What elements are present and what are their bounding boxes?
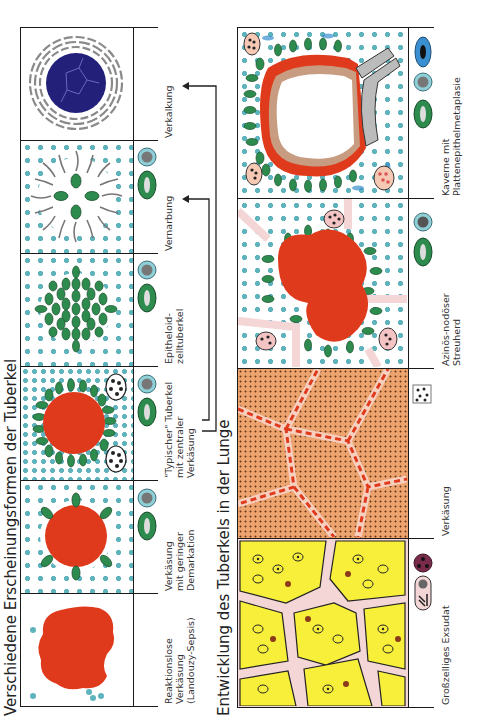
giant-cell <box>106 374 126 400</box>
label-verkalkung: Verkalkung <box>163 85 174 138</box>
label-geringe-demarkation: Verkäsung mit geringer Demarkation <box>163 530 196 592</box>
legend-icons-geringe-demarkation <box>136 486 158 586</box>
label-vernarbung: Vernarbung <box>163 196 174 251</box>
giant-cell <box>244 33 260 55</box>
scar-illustration <box>21 141 132 252</box>
label-divider <box>133 140 158 141</box>
label-divider <box>133 480 158 481</box>
giant-cell <box>374 166 394 190</box>
legend-icons-streuherd <box>412 210 434 310</box>
arrowhead-icon <box>182 82 189 90</box>
epithelioid-cluster-illustration <box>21 254 132 365</box>
panel-kaverne <box>237 27 409 199</box>
caseation-septa-illustration <box>238 369 407 537</box>
giant-cell <box>106 446 126 472</box>
label-streuherd: Azinös-nodöser Streuherd <box>440 293 462 366</box>
panel-verkaesung <box>237 368 409 539</box>
giant-cell <box>246 163 262 185</box>
panel-exsudat <box>237 538 409 708</box>
arrow-to-vernarbung <box>188 199 209 420</box>
cavity-illustration <box>238 28 407 197</box>
arrowhead-icon <box>182 195 189 203</box>
low-demarcation-caseation-illustration <box>21 481 132 592</box>
panel-vernarbung <box>20 140 134 254</box>
bottom-section-title: Entwicklung des Tuberkels in der Lunge <box>215 420 233 716</box>
panel-geringe-demarkation <box>20 480 134 594</box>
arrow-to-verkalkung <box>188 86 216 431</box>
giant-cell <box>379 328 397 350</box>
panel-typischer-tuberkel <box>20 366 134 481</box>
label-divider <box>408 368 434 369</box>
legend-icons-vernarbung <box>136 145 158 245</box>
legend-icon-caseous-texture <box>411 383 435 407</box>
legend-icons-kaverne <box>412 36 434 136</box>
label-divider <box>133 27 158 28</box>
label-verkaesung: Verkäsung <box>440 486 451 536</box>
giant-cell <box>324 210 344 228</box>
legend-icons-exsudat <box>412 552 434 632</box>
typical-tubercle-illustration <box>21 367 132 479</box>
label-exsudat: Großzelliges Exsudat <box>440 605 451 705</box>
calcified-nodule-illustration <box>21 28 132 139</box>
label-divider <box>408 27 434 28</box>
acinonodular-focus-illustration <box>238 199 407 367</box>
panel-streuherd <box>237 198 409 369</box>
giant-cell <box>256 332 276 350</box>
top-section-title: Verschiedene Erscheinungsformen der Tube… <box>2 359 20 716</box>
exudate-illustration <box>238 539 407 706</box>
label-divider <box>408 198 434 199</box>
label-divider <box>133 706 158 707</box>
label-divider <box>133 366 158 367</box>
panel-reaktionslos <box>20 593 134 707</box>
label-divider <box>133 253 158 254</box>
label-divider <box>408 538 434 539</box>
label-kaverne: Kaverne mit Plattenepithelmetaplasie <box>440 77 462 196</box>
panel-epitheloidzelltuberkel <box>20 253 134 367</box>
label-reaktionslos: Reaktionslose Verkäsung (Landouzy-Sepsis… <box>163 617 196 704</box>
label-divider <box>133 593 158 594</box>
nonreactive-caseation-illustration <box>21 594 132 705</box>
legend-icons-epitheloidzelltuberkel <box>136 258 158 358</box>
label-divider <box>408 707 434 708</box>
progression-arrows <box>178 78 218 438</box>
panel-verkalkung <box>20 27 134 141</box>
legend-icons-typischer-tuberkel <box>136 372 158 472</box>
